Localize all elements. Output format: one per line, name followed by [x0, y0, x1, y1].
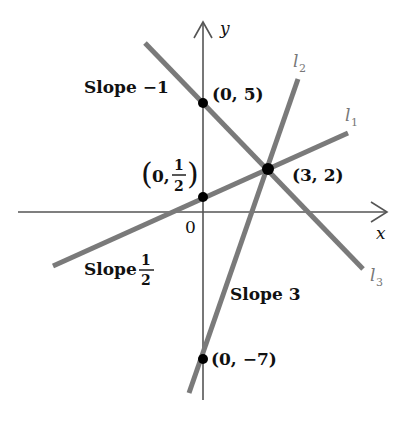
- point-label-3-2: (3, 2): [292, 165, 344, 185]
- line-l2: [189, 79, 298, 393]
- line-label-l3: l 3: [370, 265, 383, 289]
- line-label-l2: l 2: [293, 51, 306, 75]
- y-axis: [194, 22, 212, 400]
- svg-text:): ): [187, 156, 199, 191]
- svg-text:(: (: [141, 156, 153, 191]
- point-0-5: [198, 98, 208, 108]
- point-label-0-5: (0, 5): [212, 84, 264, 104]
- svg-text:0,: 0,: [152, 166, 170, 186]
- svg-text:1: 1: [174, 157, 184, 173]
- svg-text:3: 3: [376, 276, 383, 289]
- diagram-canvas: y x 0 l 2 l 1 l 3 Slope −1 Slope 3 Slope…: [0, 0, 409, 426]
- slope-label-l3: Slope −1: [84, 77, 169, 97]
- x-axis-label: x: [376, 223, 386, 243]
- coordinate-plane: y x 0 l 2 l 1 l 3 Slope −1 Slope 3 Slope…: [0, 0, 409, 426]
- svg-text:l: l: [370, 265, 375, 285]
- svg-text:1: 1: [351, 116, 358, 129]
- svg-text:2: 2: [299, 62, 306, 75]
- svg-text:1: 1: [141, 252, 151, 268]
- svg-text:2: 2: [174, 178, 184, 194]
- svg-text:2: 2: [141, 272, 151, 288]
- svg-text:l: l: [293, 51, 298, 71]
- y-axis-label: y: [219, 18, 230, 38]
- origin-label: 0: [185, 217, 196, 237]
- svg-text:l: l: [345, 105, 350, 125]
- svg-text:Slope: Slope: [84, 259, 137, 279]
- point-label-0-half: ( 0, 1 2 ): [141, 156, 199, 194]
- line-label-l1: l 1: [345, 105, 358, 129]
- slope-label-l1: Slope 1 2: [84, 252, 154, 288]
- slope-label-l2: Slope 3: [230, 284, 301, 304]
- point-label-0-neg7: (0, −7): [211, 349, 277, 369]
- point-0-neg7: [198, 354, 208, 364]
- point-3-2: [262, 163, 274, 175]
- line-l3: [145, 43, 363, 269]
- point-0-half: [198, 192, 208, 202]
